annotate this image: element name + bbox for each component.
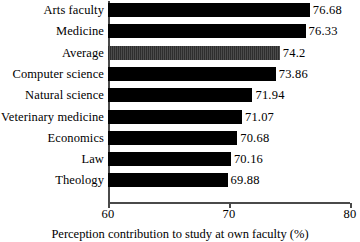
value-label: 71.94: [255, 88, 284, 102]
category-label: Computer science: [0, 67, 104, 81]
bar-row: Arts faculty76.68: [0, 2, 360, 23]
bar-row: Economics70.68: [0, 130, 360, 151]
bar: [108, 131, 237, 145]
value-label: 70.68: [240, 131, 269, 145]
bar: [108, 152, 231, 166]
value-label: 73.86: [279, 67, 308, 81]
bar-row: Average74.2: [0, 45, 360, 66]
value-label: 76.33: [309, 24, 338, 38]
value-label: 71.07: [245, 110, 274, 124]
category-label: Natural science: [0, 88, 104, 102]
bar-row: Medicine76.33: [0, 23, 360, 44]
x-tick-label: 60: [88, 207, 128, 222]
category-label: Arts faculty: [0, 3, 104, 17]
bar: [108, 3, 310, 17]
bar: [108, 173, 228, 187]
category-label: Veterinary medicine: [0, 110, 104, 124]
x-axis-title: Perception contribution to study at own …: [0, 227, 360, 242]
category-label: Theology: [0, 173, 104, 187]
bar: [108, 67, 276, 81]
value-label: 70.16: [234, 152, 263, 166]
bar-row: Veterinary medicine71.07: [0, 109, 360, 130]
bar-row: Law70.16: [0, 151, 360, 172]
category-label: Medicine: [0, 24, 104, 38]
bar: [108, 110, 242, 124]
value-label: 74.2: [283, 46, 306, 60]
category-label: Law: [0, 152, 104, 166]
bar-row: Natural science71.94: [0, 87, 360, 108]
value-label: 69.88: [231, 173, 260, 187]
bar: [108, 24, 306, 38]
bar-average: [108, 46, 280, 60]
category-label: Average: [0, 46, 104, 60]
bar: [108, 88, 252, 102]
bar-row: Computer science73.86: [0, 66, 360, 87]
x-tick-label: 80: [330, 207, 360, 222]
bar-row: Theology69.88: [0, 172, 360, 193]
value-label: 76.68: [313, 3, 342, 17]
category-label: Economics: [0, 131, 104, 145]
x-tick-label: 70: [209, 207, 249, 222]
